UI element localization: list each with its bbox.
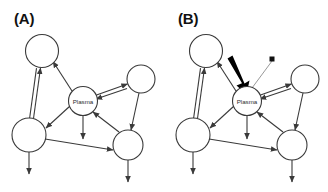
node-bottom-right[interactable] bbox=[277, 130, 307, 160]
node-bottom-left[interactable] bbox=[176, 118, 210, 152]
node-bottom-right[interactable] bbox=[113, 130, 143, 160]
figure-container: (A) bbox=[0, 0, 328, 192]
panel-a: (A) bbox=[0, 0, 164, 192]
node-top-left[interactable] bbox=[190, 35, 223, 68]
edge-bottomleft-bottomright bbox=[209, 139, 277, 150]
node-top-left[interactable] bbox=[26, 35, 59, 68]
external-thin-source-square bbox=[270, 57, 275, 62]
edge-plasma-bottomleft bbox=[210, 106, 234, 128]
edge-bottomright-plasma bbox=[93, 112, 119, 132]
edge-right-bottomright bbox=[131, 93, 139, 130]
node-right[interactable] bbox=[291, 65, 319, 93]
edge-plasma-bottomleft bbox=[46, 106, 70, 128]
edge-bottomleft-bottomright bbox=[45, 139, 113, 150]
node-bottom-left[interactable] bbox=[12, 118, 46, 152]
edge-external-thin-plasma bbox=[252, 61, 272, 88]
edge-bottomright-plasma bbox=[257, 112, 283, 132]
edge-bottomleft-topleft-b bbox=[30, 68, 37, 119]
node-plasma-label: Plasma bbox=[237, 98, 258, 105]
panel-b: (B) bbox=[164, 0, 328, 192]
edge-bottomleft-topleft-a bbox=[198, 68, 205, 119]
node-right[interactable] bbox=[127, 65, 155, 93]
edge-bottomleft-topleft-b bbox=[194, 68, 201, 119]
node-plasma-label: Plasma bbox=[73, 98, 94, 105]
edge-plasma-topleft bbox=[53, 62, 72, 92]
edge-right-bottomright bbox=[295, 93, 303, 130]
panel-a-diagram: Plasma bbox=[0, 0, 164, 192]
panel-b-diagram: Plasma bbox=[164, 0, 328, 192]
